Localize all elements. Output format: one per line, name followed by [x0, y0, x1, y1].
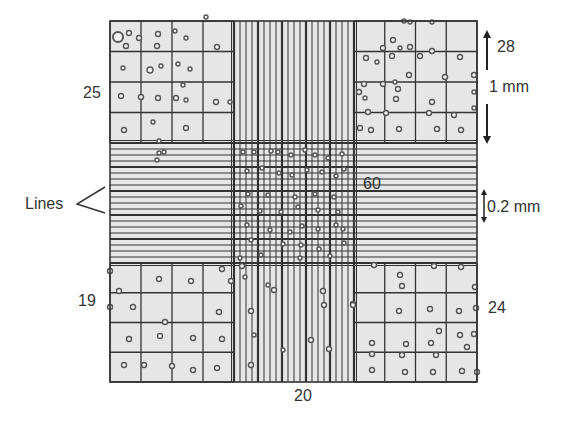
cell-center	[249, 238, 253, 242]
cell-top_right	[381, 46, 386, 51]
cell-center	[245, 223, 249, 227]
count-bottom-center: 20	[294, 388, 312, 404]
cell-top_left	[151, 120, 155, 124]
cell-bottom_right	[403, 370, 408, 375]
cell-top_right	[358, 126, 363, 131]
cell-bottom_right	[465, 345, 470, 350]
cell-top_right	[472, 90, 476, 94]
cell-bottom_left	[122, 363, 127, 368]
cell-center	[334, 174, 338, 178]
cell-top_left	[228, 100, 232, 104]
cell-top_right	[362, 82, 367, 87]
cell-top_right	[375, 60, 379, 64]
lines-label: Lines	[25, 196, 63, 212]
cell-center	[260, 166, 264, 170]
cell-bottom_right	[322, 303, 327, 308]
cell-center	[336, 210, 340, 214]
cell-bottom_left	[240, 264, 245, 269]
cell-center	[252, 150, 256, 154]
lines-pointer-icon	[77, 187, 105, 213]
cell-top_left	[159, 64, 163, 68]
cell-center	[332, 195, 336, 199]
cell-center	[269, 149, 273, 153]
cell-center	[296, 205, 300, 209]
cell-center	[268, 228, 272, 232]
cell-bottom_right	[252, 333, 256, 337]
cell-top_right	[397, 127, 402, 132]
cell-bottom_right	[429, 341, 434, 346]
count-top-left: 25	[83, 85, 101, 101]
cell-top_left	[214, 100, 219, 105]
cell-bottom_right	[397, 309, 402, 314]
cell-top_right	[452, 113, 457, 118]
cell-top_left	[147, 67, 153, 73]
cell-top_right	[408, 45, 413, 50]
cell-top_left	[184, 126, 189, 131]
cell-center	[238, 256, 242, 260]
cell-top_left	[156, 96, 161, 101]
cell-center	[276, 150, 280, 154]
cell-center	[289, 153, 293, 157]
cell-center	[320, 170, 324, 174]
cell-top_left	[155, 44, 160, 49]
cell-top_left	[184, 98, 188, 102]
cell-top_right	[407, 73, 412, 78]
cell-center	[157, 151, 161, 155]
cell-top_left	[181, 83, 185, 87]
cell-bottom_right	[327, 347, 332, 352]
cell-top_right	[364, 56, 369, 61]
cell-bottom_right	[266, 283, 270, 287]
cell-center	[293, 195, 297, 199]
cell-bottom_right	[398, 273, 403, 278]
cell-center	[155, 158, 159, 162]
cell-top_left	[124, 44, 129, 49]
cell-bottom_right	[404, 342, 409, 347]
cell-top_right	[363, 96, 367, 100]
cell-center	[290, 173, 294, 177]
cell-top_left	[188, 67, 192, 71]
cell-bottom_left	[142, 363, 147, 368]
cell-bottom_right	[458, 333, 463, 338]
arrow-head-up-icon	[483, 30, 491, 38]
cell-top_left	[121, 66, 125, 70]
cell-bottom_right	[370, 352, 375, 357]
cell-center	[245, 169, 249, 173]
cell-bottom_left	[189, 279, 194, 284]
cell-center	[298, 256, 302, 260]
cell-bottom_right	[372, 263, 377, 268]
cell-top_right	[427, 111, 432, 116]
cell-bottom_left	[191, 336, 196, 341]
cell-bottom_left	[131, 305, 136, 310]
cell-bottom_right	[428, 307, 433, 312]
cell-bottom_right	[400, 284, 405, 289]
cell-bottom_right	[400, 353, 405, 358]
cell-bottom_right	[437, 329, 442, 334]
cell-top_left	[184, 36, 188, 40]
cell-top_left	[176, 62, 180, 66]
cell-top_left	[139, 95, 144, 100]
cell-bottom_right	[460, 369, 465, 374]
cell-top_right	[459, 128, 464, 133]
cell-center	[281, 242, 285, 246]
cell-bottom_right	[432, 264, 437, 269]
cell-bottom_left	[191, 368, 196, 373]
cell-center	[300, 224, 304, 228]
cell-top_right	[396, 87, 401, 92]
cell-top_right	[384, 111, 389, 116]
cell-bottom_right	[321, 289, 326, 294]
cell-bottom_left	[117, 289, 122, 294]
cell-center	[299, 243, 303, 247]
large-square-size-label: 1 mm	[489, 79, 529, 95]
cell-center	[317, 247, 321, 251]
count-center: 60	[363, 176, 381, 192]
cell-center	[316, 208, 320, 212]
cell-top_right	[435, 127, 440, 132]
cell-top_left	[157, 139, 161, 143]
cell-top_right	[443, 75, 448, 80]
cell-bottom_left	[229, 279, 234, 284]
cell-top_left	[173, 29, 177, 33]
cell-bottom_right	[370, 368, 375, 373]
cell-bottom_left	[217, 310, 222, 315]
cell-top_right	[369, 128, 374, 133]
cell-bottom_left	[249, 309, 254, 314]
